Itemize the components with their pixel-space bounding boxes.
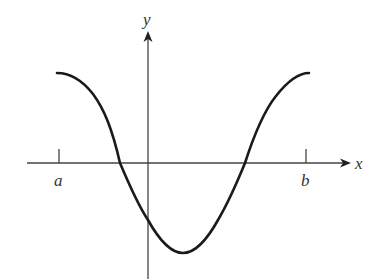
tick-label-b: b (301, 171, 310, 190)
function-graph: y x a b (0, 0, 385, 279)
y-axis-label: y (141, 10, 151, 29)
x-axis-label: x (354, 154, 363, 173)
tick-label-a: a (54, 171, 63, 190)
